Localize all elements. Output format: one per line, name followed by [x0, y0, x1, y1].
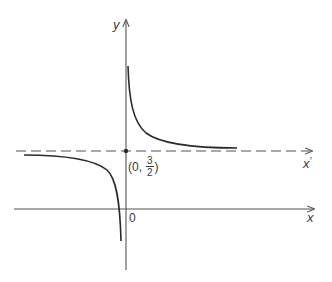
point-label: (0, 3 2 ) [128, 155, 159, 178]
point-marker [124, 149, 128, 153]
fraction-numerator: 3 [146, 155, 154, 167]
fraction-denominator: 2 [147, 167, 153, 178]
y-axis-label: y [113, 18, 120, 31]
curve-left-branch [24, 155, 121, 241]
curve-right-branch [128, 66, 237, 148]
hyperbola-diagram [0, 0, 332, 282]
asymptote-label-prime: ′ [310, 156, 312, 167]
point-label-prefix: (0, [128, 161, 142, 173]
asymptote-label: x′ [303, 157, 311, 170]
point-label-suffix: ) [155, 161, 159, 173]
point-label-fraction: 3 2 [146, 155, 154, 178]
origin-label: 0 [129, 212, 136, 224]
x-axis-label: x [307, 211, 314, 224]
